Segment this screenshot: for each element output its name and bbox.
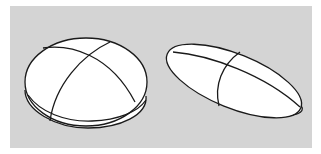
ellipsoid-diagram (0, 0, 321, 154)
elongated-ellipsoid (157, 29, 311, 133)
round-ellipsoid (25, 38, 147, 128)
